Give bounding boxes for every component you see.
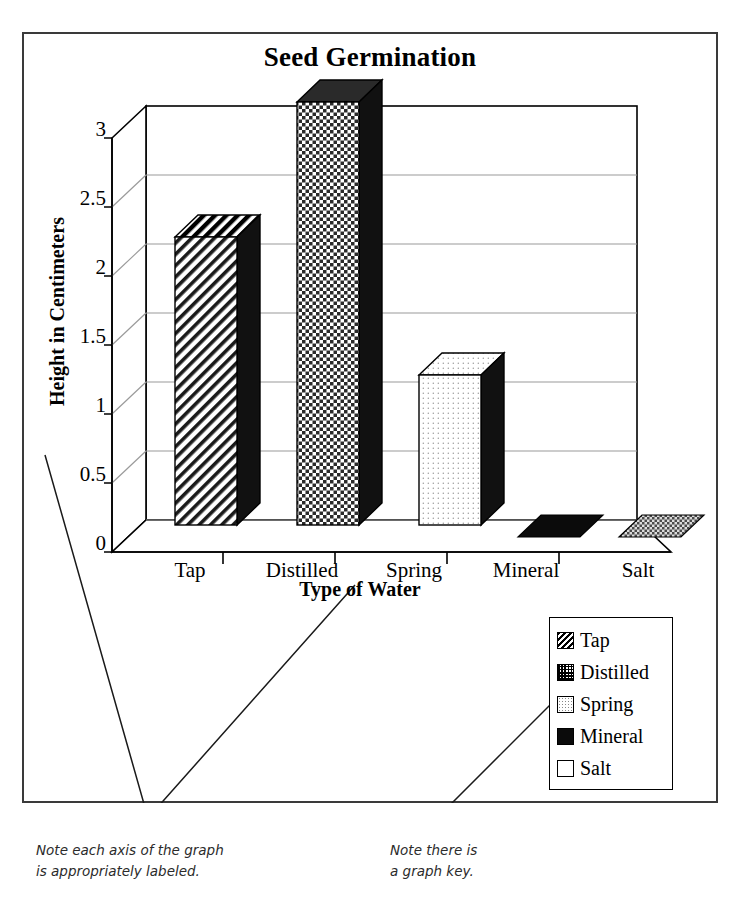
legend-label-spring: Spring bbox=[580, 694, 633, 714]
y-tick-label-2: 2 bbox=[60, 255, 106, 280]
annotation-graph-key: Note there is a graph key. bbox=[390, 840, 477, 882]
white-swatch-icon bbox=[557, 760, 574, 777]
annotation-key-line-1: Note there is bbox=[390, 840, 477, 861]
annotation-key-line-2: a graph key. bbox=[390, 861, 477, 882]
y-axis-title: Height in Centimeters bbox=[46, 197, 69, 427]
legend-label-mineral: Mineral bbox=[580, 726, 643, 746]
annotation-axes-line-1: Note each axis of the graph bbox=[36, 840, 224, 861]
x-tick-label-salt: Salt bbox=[582, 558, 694, 583]
solid-black-swatch-icon bbox=[557, 728, 574, 745]
light-dots-swatch-icon bbox=[557, 696, 574, 713]
y-tick-label-0: 0 bbox=[60, 531, 106, 556]
x-tick-label-mineral: Mineral bbox=[470, 558, 582, 583]
legend-label-salt: Salt bbox=[580, 758, 611, 778]
legend-item-salt: Salt bbox=[557, 753, 666, 783]
x-tick-label-spring: Spring bbox=[358, 558, 470, 583]
x-tick-label-distilled: Distilled bbox=[246, 558, 358, 583]
legend-label-distilled: Distilled bbox=[580, 662, 649, 682]
legend-item-spring: Spring bbox=[557, 689, 666, 719]
annotation-axes-labeled: Note each axis of the graph is appropria… bbox=[36, 840, 224, 882]
y-tick-label-0.5: 0.5 bbox=[60, 462, 106, 487]
bar-distilled bbox=[297, 80, 382, 525]
leader-line-key bbox=[425, 703, 552, 803]
y-tick-label-3: 3 bbox=[60, 117, 106, 142]
y-tick-label-1: 1 bbox=[60, 393, 106, 418]
screenshot-root: Seed Germination bbox=[0, 0, 746, 911]
legend-item-tap: Tap bbox=[557, 625, 666, 655]
y-tick-label-1.5: 1.5 bbox=[60, 324, 106, 349]
diagonal-stripes-swatch-icon bbox=[557, 632, 574, 649]
annotation-axes-line-2: is appropriately labeled. bbox=[36, 861, 224, 882]
legend-item-distilled: Distilled bbox=[557, 657, 666, 687]
x-tick-label-tap: Tap bbox=[134, 558, 246, 583]
y-tick-label-2.5: 2.5 bbox=[60, 186, 106, 211]
checkerboard-swatch-icon bbox=[557, 664, 574, 681]
bar-tap bbox=[175, 215, 260, 525]
legend-item-mineral: Mineral bbox=[557, 721, 666, 751]
chart-legend: Tap Distilled Spring Mineral Salt bbox=[549, 617, 673, 790]
legend-label-tap: Tap bbox=[580, 630, 610, 650]
bar-spring bbox=[419, 353, 504, 525]
